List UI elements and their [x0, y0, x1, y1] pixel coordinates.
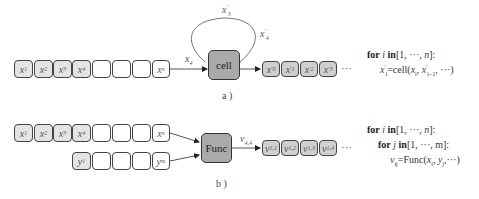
ellipsis: ···	[341, 62, 352, 74]
ellipsis: ···	[341, 141, 352, 153]
code-a-line2: x'i=cell(xi, x'i−1, ···)	[380, 64, 454, 77]
label-sub: 4,4	[244, 140, 252, 146]
input-cell-xn: xn	[152, 60, 170, 78]
kw-in: in	[388, 124, 396, 135]
cell-sub: 1,2	[288, 145, 296, 151]
output-edge-label: v4,4	[240, 133, 252, 146]
range: [1, ···, m]:	[407, 139, 449, 150]
x-cell-xn: xn	[152, 124, 170, 142]
eq: =cell(	[387, 64, 410, 75]
range-close: ]:	[429, 49, 435, 60]
connector-lines	[0, 0, 479, 199]
range: [1, ···,	[396, 49, 424, 60]
x-cell-empty	[132, 124, 151, 142]
code-a-line1: for i in[1, ···, n]:	[367, 49, 435, 60]
cell-sub: 3	[329, 66, 332, 72]
label-sup: '	[264, 28, 265, 34]
kw-in: in	[399, 139, 407, 150]
cell-sub: 1	[24, 130, 27, 136]
output-cell-x3p: x'3	[319, 61, 337, 77]
input-cell-empty	[112, 60, 131, 78]
loop-edge-label: x'3	[222, 4, 231, 17]
range-close: ]:	[429, 124, 435, 135]
rest: , ···)	[435, 64, 453, 75]
output-edge-label: x'4	[260, 28, 269, 41]
input-cell-x4: x4	[72, 60, 91, 78]
output-cell-v14: v1,4	[319, 140, 337, 156]
x-cell-x1: x1	[14, 124, 33, 142]
eq: =Func(	[398, 154, 427, 165]
cell-sub: 2	[44, 130, 47, 136]
y-cell-empty	[112, 152, 131, 170]
input-cell-empty	[132, 60, 151, 78]
cell-sub: 1	[291, 66, 294, 72]
cell-sub: 4	[82, 130, 85, 136]
loop-var: i	[382, 49, 385, 60]
code-b-line2: for j in[1, ···, m]:	[378, 139, 449, 150]
func-processor: Func	[201, 133, 232, 163]
kw-for: for	[378, 139, 391, 150]
kw-for: for	[367, 124, 380, 135]
caption-a: a )	[222, 90, 232, 101]
cell-sub: 4	[82, 66, 85, 72]
input-cell-x3: x3	[53, 60, 72, 78]
loop-var: i	[382, 124, 385, 135]
x-cell-x4: x4	[72, 124, 91, 142]
input-cell-empty	[92, 60, 111, 78]
output-cell-v13: v1,3	[300, 140, 318, 156]
cell-sub: 1,1	[269, 145, 277, 151]
input-cell-x1: x1	[14, 60, 33, 78]
cell-sub: 3	[63, 66, 66, 72]
x-cell-x3: x3	[53, 124, 72, 142]
kw-in: in	[388, 49, 396, 60]
cell-sub: 1,3	[307, 145, 315, 151]
output-cell-v11: v1,1	[262, 140, 280, 156]
lhs-sup: '	[384, 64, 385, 70]
x-cell-empty	[112, 124, 131, 142]
label-sub: 3	[228, 11, 231, 17]
output-cell-x0p: x'0	[262, 61, 280, 77]
caption-b: b )	[216, 178, 227, 189]
loop-var: j	[393, 139, 396, 150]
kw-for: for	[367, 49, 380, 60]
y-cell-empty	[92, 152, 111, 170]
y-cell-y1: y1	[72, 152, 91, 170]
cell-sub: 1,4	[326, 145, 334, 151]
cell-sub: n	[162, 130, 165, 136]
y-cell-ym: ym	[152, 152, 170, 170]
label-sub: 4	[189, 60, 192, 66]
cell-sub: 0	[272, 66, 275, 72]
arg2-sup: '	[426, 64, 427, 70]
code-b-line1: for i in[1, ···, n]:	[367, 124, 435, 135]
cell-sub: 2	[44, 66, 47, 72]
cell-processor: cell	[208, 50, 240, 80]
output-cell-x2p: x'2	[300, 61, 318, 77]
cell-sub: 3	[63, 130, 66, 136]
x-cell-empty	[92, 124, 111, 142]
input-edge-label: x4	[185, 53, 192, 66]
code-b-line3: vij=Func(xi, yj,···)	[390, 154, 460, 167]
cell-sub: n	[162, 66, 165, 72]
output-cell-v12: v1,2	[281, 140, 299, 156]
output-cell-x1p: x'1	[281, 61, 299, 77]
cell-sub: m	[161, 158, 165, 164]
cell-sub: 1	[82, 158, 85, 164]
x-cell-x2: x2	[34, 124, 53, 142]
range: [1, ···,	[396, 124, 424, 135]
input-cell-x2: x2	[34, 60, 53, 78]
label-sup: '	[226, 4, 227, 10]
cell-sub: 2	[310, 66, 313, 72]
y-cell-empty	[132, 152, 151, 170]
label-sub: 4	[266, 35, 269, 41]
cell-sub: 1	[24, 66, 27, 72]
rest: ,···)	[444, 154, 460, 165]
